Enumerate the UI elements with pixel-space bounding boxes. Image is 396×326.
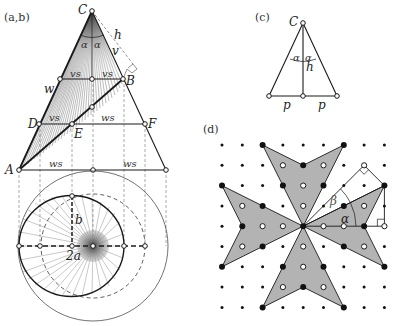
lattice-dot-open	[240, 244, 245, 249]
lattice-dot-filled	[219, 264, 225, 270]
lattice-dot	[261, 164, 264, 167]
lattice-dot	[221, 286, 224, 289]
lattice-dot-open	[280, 163, 285, 168]
lattice-dot-open	[260, 224, 265, 229]
lattice-dot	[241, 286, 244, 289]
lattice-dot	[322, 144, 325, 147]
lattice-dot	[302, 306, 305, 309]
label-beta-d: β	[329, 194, 337, 208]
lattice-dot-filled	[341, 244, 347, 250]
point-F: F	[147, 117, 157, 131]
lattice-dot	[281, 204, 284, 207]
label-alpha-right: α	[94, 39, 101, 50]
fan-lines-triangle	[19, 11, 122, 170]
lattice-dot-filled	[300, 162, 306, 168]
lattice-dot	[322, 204, 325, 207]
lattice-dot-filled	[341, 304, 347, 310]
lattice-dot	[383, 144, 386, 147]
lattice-dot	[342, 265, 345, 268]
triangle-c	[269, 23, 337, 96]
lattice-dot-open	[301, 264, 306, 269]
label-alpha-left: α	[81, 39, 88, 50]
lattice-dot-open	[341, 224, 346, 229]
lattice-dot	[221, 245, 224, 248]
panel-c-label: (c)	[255, 11, 270, 24]
lattice-dot-filled	[280, 264, 286, 270]
lattice-dot	[302, 144, 305, 147]
label-ws-bottom-left: ws	[49, 158, 63, 169]
lattice-dot	[281, 245, 284, 248]
label-p-right: p	[318, 98, 326, 112]
panel-c: (c) C α α h p p	[255, 11, 339, 112]
lattice-dot-open	[301, 244, 306, 249]
lattice-dots	[219, 142, 387, 310]
label-ws-bottom-right: ws	[123, 158, 137, 169]
lattice-dot	[383, 164, 386, 167]
label-h-c: h	[306, 60, 314, 74]
lattice-dot	[363, 265, 366, 268]
lattice-dot-open	[321, 163, 326, 168]
label-2a: 2a	[65, 249, 81, 263]
panel-d-label: (d)	[203, 123, 219, 136]
lattice-dot-filled	[321, 183, 327, 189]
lattice-dot-open	[321, 224, 326, 229]
lattice-dot	[383, 306, 386, 309]
lattice-dot-open	[280, 224, 285, 229]
lattice-dot-filled	[361, 223, 367, 229]
lattice-dot-open	[280, 285, 285, 290]
label-v: v	[112, 44, 119, 58]
lattice-dot	[221, 164, 224, 167]
label-vs-mid: vs	[49, 112, 60, 123]
lattice-dot	[281, 144, 284, 147]
point-C-c: C	[289, 15, 298, 29]
lattice-dot-filled	[341, 142, 347, 148]
point-E: E	[73, 127, 83, 141]
lattice-dot	[241, 144, 244, 147]
lattice-dot	[221, 225, 224, 228]
lattice-dot-open	[301, 183, 306, 188]
lattice-dot	[363, 144, 366, 147]
label-w: w	[44, 82, 55, 96]
lattice-dot	[383, 204, 386, 207]
lattice-dot-open	[362, 244, 367, 249]
lattice-dot-filled	[219, 183, 225, 189]
lattice-dot	[363, 286, 366, 289]
lattice-dot	[322, 306, 325, 309]
lattice-dot-open	[362, 163, 367, 168]
lattice-dot	[342, 184, 345, 187]
lattice-dot	[363, 184, 366, 187]
lattice-dot-filled	[260, 142, 266, 148]
point-C: C	[78, 3, 87, 17]
panel-d: (d) α β	[203, 123, 387, 310]
lattice-dot-filled	[300, 223, 306, 229]
label-p-left: p	[283, 98, 291, 112]
lattice-dot-open	[301, 203, 306, 208]
lattice-dot	[241, 164, 244, 167]
lattice-dot-open	[362, 203, 367, 208]
point-D: D	[27, 117, 38, 131]
lattice-dot	[241, 184, 244, 187]
lattice-dot-filled	[300, 284, 306, 290]
lattice-dot-filled	[381, 183, 387, 189]
label-b: b	[75, 213, 83, 227]
point-B: B	[125, 74, 135, 88]
lattice-dot-open	[240, 203, 245, 208]
lattice-dot	[383, 245, 386, 248]
lattice-dot	[221, 144, 224, 147]
label-ws-mid: ws	[101, 112, 115, 123]
lattice-dot-filled	[260, 203, 266, 209]
label-h: h	[114, 28, 122, 42]
lattice-dot-filled	[321, 264, 327, 270]
lattice-dot	[241, 265, 244, 268]
lattice-dot	[322, 245, 325, 248]
lattice-dot-filled	[260, 244, 266, 250]
lattice-dot	[261, 184, 264, 187]
figure: (a,b)	[0, 0, 396, 326]
label-vs-top-left: vs	[70, 68, 81, 79]
lattice-dot	[261, 265, 264, 268]
lattice-dot-filled	[341, 203, 347, 209]
lattice-dot-open	[321, 285, 326, 290]
lattice-dot	[342, 164, 345, 167]
point-A: A	[4, 163, 14, 177]
label-vs-top-right: vs	[102, 68, 113, 79]
